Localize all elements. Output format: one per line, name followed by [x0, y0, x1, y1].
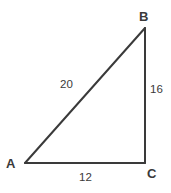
side-length-label-ab: 20	[60, 79, 73, 91]
triangle-shape	[0, 0, 171, 193]
side-length-label-bc: 16	[150, 84, 163, 96]
vertex-label-c: C	[147, 167, 156, 180]
triangle-diagram: A B C 20 16 12	[0, 0, 171, 193]
side-ab-line	[25, 28, 145, 163]
vertex-label-b: B	[139, 10, 148, 23]
side-length-label-ac: 12	[79, 172, 92, 184]
vertex-label-a: A	[6, 157, 15, 170]
